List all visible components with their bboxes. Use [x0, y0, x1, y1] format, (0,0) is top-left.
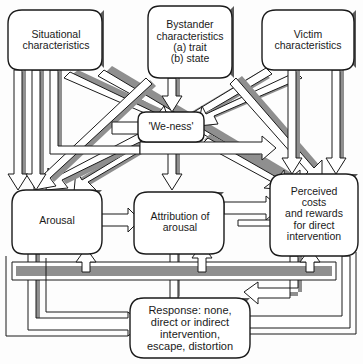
node-bystander[interactable]	[148, 6, 232, 78]
edge-victim-to-perceived	[326, 68, 346, 174]
node-weness[interactable]	[138, 112, 204, 142]
node-response[interactable]	[130, 298, 250, 358]
edge-response-to-arousal	[12, 262, 336, 280]
node-attribution[interactable]	[134, 192, 224, 254]
node-arousal[interactable]	[12, 190, 102, 254]
diagram-canvas: .abody{fill:#ffffff;stroke:#1a1a1a;strok…	[0, 0, 363, 364]
edge-situational-to-arousal-b	[26, 68, 46, 190]
edge-situational-to-arousal	[8, 68, 28, 190]
node-situational[interactable]	[8, 10, 102, 70]
flowchart-graphic: .abody{fill:#ffffff;stroke:#1a1a1a;strok…	[0, 0, 363, 364]
node-perceived[interactable]	[270, 174, 358, 256]
node-victim[interactable]	[262, 10, 354, 70]
